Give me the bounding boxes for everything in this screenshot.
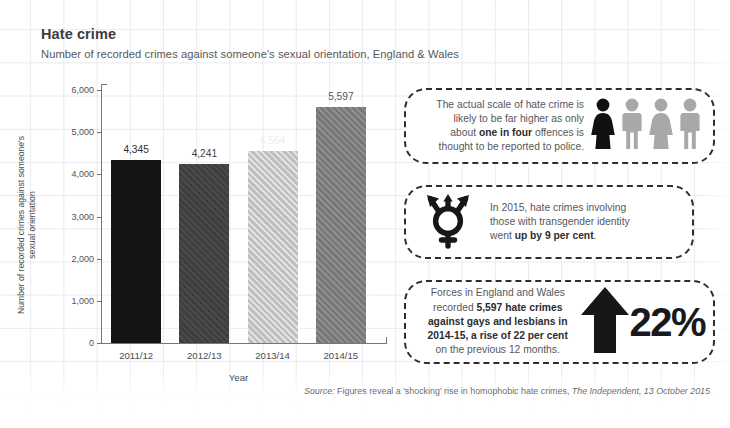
bar-2013-14: 4,5642013/14: [248, 151, 298, 343]
callout2-line1: In 2015, hate crimes involving: [490, 202, 626, 213]
x-axis-end-cap: [386, 337, 387, 344]
callout-annual-rise-text: Forces in England and Wales recorded 5,5…: [418, 286, 577, 357]
bar-2012-13: 4,2412012/13: [179, 164, 229, 343]
source-note: Source: Figures reveal a 'shocking' rise…: [304, 386, 710, 396]
callout1-line2: likely to be far higher as only: [454, 113, 585, 124]
callout3-line1: Forces in England and Wales: [431, 287, 565, 298]
x-axis-tick: 2013/14: [255, 350, 290, 361]
bar-fill: [248, 151, 298, 343]
y-axis-tick: 1,000: [71, 296, 102, 306]
page-subtitle: Number of recorded crimes against someon…: [41, 48, 459, 60]
callout1-line3-b: offences is: [532, 127, 584, 138]
bar-fill: [316, 107, 366, 343]
y-axis-tick: 2,000: [71, 254, 102, 264]
source-date: 13 October 2015: [641, 386, 710, 396]
callout2-line3-b: .: [594, 230, 597, 241]
callout2-line2: those with transgender identity: [490, 216, 630, 227]
callout-transgender-rise: In 2015, hate crimes involving those wit…: [404, 185, 694, 259]
callout3-line2-a: recorded: [433, 302, 477, 313]
transgender-symbol-icon: [422, 191, 474, 253]
callout2-line3-a: went: [490, 230, 515, 241]
page-title: Hate crime: [41, 26, 116, 42]
callout-annual-rise: Forces in England and Wales recorded 5,5…: [404, 280, 715, 364]
callout3-line3-bold: against gays and lesbians in: [428, 316, 568, 327]
callout3-line5: on the previous 12 months.: [436, 344, 560, 355]
person-female-highlight-icon: [590, 97, 616, 155]
callout2-line3-bold: up by 9 per cent: [515, 230, 594, 241]
x-axis-tick: 2014/15: [324, 350, 359, 361]
bar-value-label: 4,345: [123, 144, 149, 155]
y-axis-tick: 6,000: [71, 85, 102, 95]
callout1-line1: The actual scale of hate crime is: [436, 99, 584, 110]
plot-area: 01,0002,0003,0004,0005,0006,000 4,345201…: [102, 90, 375, 343]
callout1-line3-bold: one in four: [479, 127, 532, 138]
x-axis-tick: 2011/12: [119, 350, 153, 361]
source-prefix: Source:: [304, 386, 335, 396]
bar-fill: [179, 164, 229, 343]
bar-value-label: 4,564: [260, 135, 286, 146]
bar-2011-12: 4,3452011/12: [111, 160, 161, 343]
y-axis-label: Number of recorded crimes against someon…: [16, 130, 38, 320]
callout1-line3-a: about: [450, 127, 479, 138]
four-people-icon: [590, 97, 703, 155]
percent-increase-group: 22%: [579, 285, 705, 359]
source-text: Figures reveal a 'shocking' rise in homo…: [335, 386, 570, 396]
percent-increase-value: 22%: [629, 300, 705, 345]
person-female-muted-icon: [648, 97, 674, 155]
callout3-line4-bold: 2014-15, a rise of 22 per cent: [428, 330, 568, 341]
bar-value-label: 4,241: [192, 148, 218, 159]
bar-chart: Number of recorded crimes against someon…: [30, 78, 390, 378]
y-axis-tick: 4,000: [71, 169, 102, 179]
callout-reporting-rate-text: The actual scale of hate crime is likely…: [418, 98, 584, 155]
infographic-canvas: Hate crime Number of recorded crimes aga…: [0, 0, 730, 428]
bar-fill: [111, 160, 161, 343]
callout-transgender-rise-text: In 2015, hate crimes involving those wit…: [490, 201, 630, 244]
bar-2014-15: 5,5972014/15: [316, 107, 366, 343]
up-arrow-icon: [579, 285, 631, 359]
callout1-line4: thought to be reported to police.: [439, 141, 584, 152]
bar-value-label: 5,597: [328, 91, 354, 102]
callout3-line2-bold: 5,597 hate crimes: [477, 302, 563, 313]
source-publication: The Independent,: [569, 386, 641, 396]
x-axis-tick: 2012/13: [187, 350, 222, 361]
callout-reporting-rate: The actual scale of hate crime is likely…: [404, 88, 715, 164]
y-axis-tick: 3,000: [71, 212, 102, 222]
person-male-muted-icon: [619, 97, 645, 155]
y-axis-tick: 5,000: [71, 127, 102, 137]
x-axis-label: Year: [102, 372, 375, 383]
y-axis-tick: 0: [89, 338, 102, 348]
person-male-muted-icon: [677, 97, 703, 155]
